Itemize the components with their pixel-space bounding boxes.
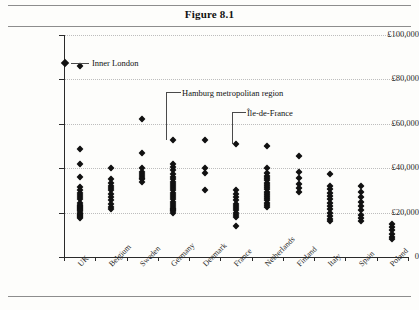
data-point <box>232 140 239 147</box>
x-axis-label-germany: Germany <box>169 241 196 268</box>
annotation-ile-de-france: Île-de-France <box>247 108 293 118</box>
data-point <box>76 160 83 167</box>
gridline <box>64 168 408 169</box>
annotation-inner-london: Inner London <box>92 58 139 68</box>
x-axis-tick <box>252 257 253 261</box>
data-point <box>139 116 146 123</box>
x-axis-tick <box>220 257 221 261</box>
data-point <box>201 187 208 194</box>
legend-marker-inner-london <box>61 59 69 67</box>
data-point <box>326 218 333 225</box>
data-point <box>201 169 208 176</box>
data-point <box>76 146 83 153</box>
data-point <box>139 149 146 156</box>
leader-line <box>232 112 246 113</box>
x-axis-label-netherlands: Netherlands <box>263 235 297 269</box>
x-axis-label-uk: UK <box>76 254 91 269</box>
x-axis-label-italy: Italy <box>326 252 343 269</box>
data-point <box>232 222 239 229</box>
gridline <box>64 79 408 80</box>
figure-container: Figure 8.1 £100,000£80,000£60,000£40,000… <box>0 0 419 310</box>
x-axis-tick <box>127 257 128 261</box>
data-point <box>326 170 333 177</box>
x-axis-tick <box>314 257 315 261</box>
gridline <box>64 35 408 36</box>
data-point <box>107 165 114 172</box>
x-axis-tick <box>283 257 284 261</box>
x-axis-label-belgium: Belgium <box>107 243 133 269</box>
data-point <box>76 174 83 181</box>
leader-line <box>166 92 167 140</box>
leader-line <box>232 112 233 144</box>
scatter-plot: £100,000£80,000£60,000£40,000£20,0000 UK… <box>0 0 419 310</box>
y-axis-label: £80,000 <box>363 73 419 83</box>
y-axis-label: £60,000 <box>363 118 419 128</box>
x-axis-tick <box>408 257 409 261</box>
annotation-hamburg: Hamburg metropolitan region <box>182 88 283 98</box>
x-axis-tick <box>158 257 159 261</box>
x-axis-tick <box>377 257 378 261</box>
gridline <box>64 124 408 125</box>
data-point <box>264 142 271 149</box>
x-axis-tick <box>189 257 190 261</box>
x-axis-tick <box>64 257 65 261</box>
data-point <box>170 137 177 144</box>
leader-line <box>71 63 89 64</box>
leader-line <box>166 92 181 93</box>
y-axis-label: £100,000 <box>363 29 419 39</box>
x-axis-tick <box>345 257 346 261</box>
data-point <box>76 215 83 222</box>
data-point <box>295 152 302 159</box>
y-axis-label: £40,000 <box>363 162 419 172</box>
x-axis-tick <box>95 257 96 261</box>
y-axis-line <box>64 35 65 258</box>
y-axis-label: £20,000 <box>363 207 419 217</box>
x-axis-label-denmark: Denmark <box>201 241 228 268</box>
data-point <box>201 137 208 144</box>
